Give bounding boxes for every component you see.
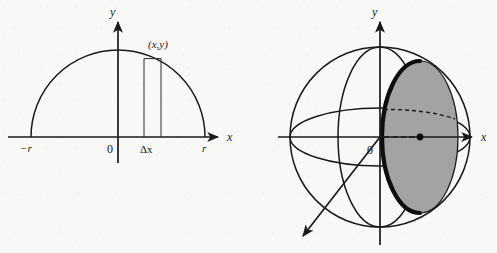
figure-canvas: y x 0 −r r (x,y) Δx — [0, 0, 497, 253]
left-radius-label: −r — [20, 142, 32, 154]
semicircle-panel: y x 0 −r r (x,y) Δx — [8, 5, 233, 163]
sphere-panel: y x 0 — [278, 5, 487, 245]
disk-center-dot — [417, 134, 424, 141]
point-xy-label: (x,y) — [148, 38, 168, 51]
origin-label-left: 0 — [107, 142, 113, 156]
y-axis-label-left: y — [109, 5, 116, 19]
y-axis-label-right: y — [371, 5, 378, 19]
x-axis-label-right: x — [480, 130, 487, 144]
delta-x-label: Δx — [140, 143, 153, 155]
right-radius-label: r — [202, 142, 207, 154]
riemann-strip-rectangle — [144, 59, 161, 137]
x-axis-label-left: x — [226, 130, 233, 144]
math-figure: y x 0 −r r (x,y) Δx — [0, 0, 497, 253]
origin-label-right: 0 — [367, 143, 373, 157]
